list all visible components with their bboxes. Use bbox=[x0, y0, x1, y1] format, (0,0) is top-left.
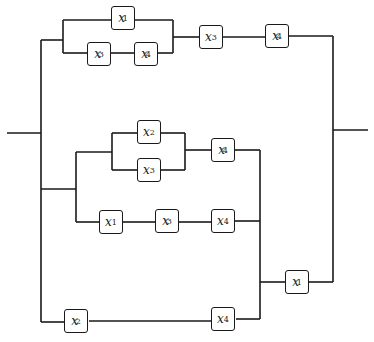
switch-index: 2 bbox=[150, 128, 155, 137]
switch-index: 4 bbox=[146, 50, 151, 59]
switch-x1-prime: x′1 bbox=[111, 6, 135, 30]
switch-variable: x bbox=[217, 312, 224, 326]
switch-index: 3 bbox=[212, 33, 217, 42]
switch-index: 4 bbox=[223, 146, 228, 155]
switch-x3-prime: x′3 bbox=[87, 42, 111, 66]
switch-index: 4 bbox=[277, 32, 282, 41]
switch-variable: x bbox=[217, 214, 224, 228]
switching-circuit-diagram: x′1x′3x′4x3x′4x2x3x′4x1x′3x4x′1x′2x4 bbox=[0, 0, 374, 342]
switch-variable: x bbox=[105, 215, 112, 229]
switch-variable: x bbox=[143, 163, 150, 177]
switch-x3: x3 bbox=[137, 158, 161, 182]
switch-index: 3 bbox=[99, 50, 104, 59]
switch-x4: x4 bbox=[211, 209, 235, 233]
switch-variable: x bbox=[205, 30, 212, 44]
switch-index: 4 bbox=[224, 315, 229, 324]
wires-layer bbox=[0, 0, 374, 342]
switch-index: 1 bbox=[123, 14, 128, 23]
switch-x3-prime: x′3 bbox=[155, 209, 179, 233]
switch-x4-prime: x′4 bbox=[265, 24, 289, 48]
switch-index: 1 bbox=[112, 218, 117, 227]
switch-x3: x3 bbox=[199, 25, 223, 49]
switch-x1: x1 bbox=[99, 210, 123, 234]
switch-index: 2 bbox=[76, 317, 81, 326]
switch-x4-prime: x′4 bbox=[134, 42, 158, 66]
switch-index: 1 bbox=[297, 278, 302, 287]
switch-x4-prime: x′4 bbox=[211, 138, 235, 162]
switch-x4: x4 bbox=[211, 307, 235, 331]
switch-x1-prime: x′1 bbox=[285, 270, 309, 294]
switch-x2: x2 bbox=[137, 120, 161, 144]
switch-index: 3 bbox=[167, 217, 172, 226]
switch-x2-prime: x′2 bbox=[64, 309, 88, 333]
switch-index: 3 bbox=[150, 166, 155, 175]
switch-variable: x bbox=[143, 125, 150, 139]
switch-index: 4 bbox=[224, 217, 229, 226]
